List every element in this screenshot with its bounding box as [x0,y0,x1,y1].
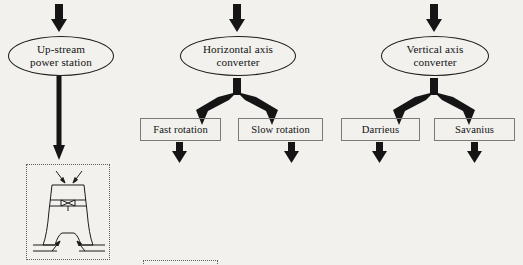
label-box-fast-rotation[interactable]: Fast rotation [140,118,221,141]
label-box-darrieus[interactable]: Darrieus [341,118,420,141]
inbound-arrow-horizontal [229,4,245,32]
panel-two-blade-wind-turbine[interactable] [143,260,218,265]
panel-hydro-dam[interactable] [26,164,110,260]
inbound-arrow-upstream [51,4,67,32]
node-label-line2: converter [203,56,273,69]
connector-arrow-upstream-to-hydro [53,76,65,160]
label-box-slow-rotation[interactable]: Slow rotation [238,118,323,141]
node-label-line1: Vertical axis [407,43,464,56]
node-horizontal-axis-converter[interactable]: Horizontal axis converter [180,36,296,76]
connector-arrow-savanius [467,142,482,163]
connector-arrow-slow-rotation [284,142,299,163]
label-box-text: Darrieus [362,124,399,135]
label-box-text: Fast rotation [153,124,208,135]
label-box-text: Savanius [455,124,494,135]
node-label-line2: power station [30,56,92,69]
node-label-line1: Horizontal axis [203,43,273,56]
connector-arrow-fast-rotation [172,142,187,163]
diagram-canvas: Up-stream power station Horizontal axis … [0,0,523,265]
label-box-savanius[interactable]: Savanius [434,118,515,141]
node-label-line2: converter [407,56,464,69]
hydro-dam-illustration [27,165,109,259]
node-vertical-axis-converter[interactable]: Vertical axis converter [381,36,489,76]
inbound-arrow-vertical [426,4,442,32]
label-box-text: Slow rotation [251,124,310,135]
node-up-stream-power-station[interactable]: Up-stream power station [8,36,114,76]
two-blade-wind-turbine-illustration [144,261,217,265]
node-label-line1: Up-stream [30,43,92,56]
connector-arrow-darrieus [372,142,387,163]
